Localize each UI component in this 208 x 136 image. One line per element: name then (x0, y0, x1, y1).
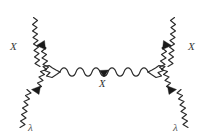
lower-right-wavy-line (177, 90, 188, 128)
upper-right-wavy-line-lower (148, 45, 167, 78)
lower-left-arrowhead (32, 86, 41, 95)
lower-left-leg (20, 66, 60, 128)
upper-left-wavy-line (33, 18, 41, 67)
upper-right-wavy-line (168, 18, 176, 67)
feynman-diagram-canvas: X X λ λ X (0, 0, 208, 136)
feynman-diagram-svg (0, 0, 208, 136)
upper-right-leg (148, 18, 176, 78)
lower-left-wavy-line-upper (37, 66, 61, 90)
lower-right-arrowhead (168, 86, 177, 95)
label-upper-right-x: X (188, 41, 195, 52)
internal-propagator (60, 68, 148, 77)
lower-right-leg (148, 66, 188, 128)
upper-left-leg (33, 18, 61, 78)
lower-right-wavy-line-upper (148, 66, 172, 90)
upper-left-wavy-line-lower (41, 45, 60, 78)
label-internal-x: X (99, 79, 105, 90)
label-upper-left-x: X (10, 41, 17, 52)
label-lower-right-lambda: λ (173, 122, 178, 133)
label-lower-left-lambda: λ (28, 122, 33, 133)
